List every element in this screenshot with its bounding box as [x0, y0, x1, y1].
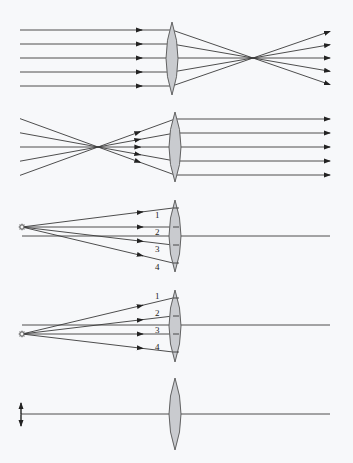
point-source-star-icon: [19, 331, 25, 337]
ray-number-label: 2: [155, 308, 160, 318]
lens-parallel-in-converge: [166, 22, 178, 95]
lens-object-arrow: [169, 378, 181, 450]
ray-arrow-icon: [138, 132, 140, 133]
lens-ray-diagram: 12341234: [0, 0, 353, 463]
numbered-ray: [22, 208, 173, 227]
convex-lens: [169, 378, 181, 450]
ray-number-label: 1: [155, 291, 160, 301]
ray-number-label: 2: [155, 227, 160, 237]
convex-lens: [169, 200, 181, 272]
numbered-ray: [22, 334, 173, 352]
ray-number-label: 1: [155, 210, 160, 220]
ray-number-label: 4: [155, 262, 160, 272]
ray-number-label: 4: [155, 342, 160, 352]
ray-arrow-icon: [138, 162, 140, 163]
diagram-canvas: 12341234: [0, 0, 353, 463]
lens-focus-in-parallel: [169, 112, 181, 182]
convex-lens: [166, 22, 178, 95]
refracted-ray: [172, 31, 330, 86]
convex-lens: [169, 290, 181, 362]
convex-lens: [169, 112, 181, 182]
lens-point-source-off-axis: [169, 290, 181, 362]
ray-number-label: 3: [155, 244, 160, 254]
numbered-ray: [22, 227, 173, 263]
point-source-star-icon: [19, 224, 25, 230]
lens-point-source-near: [169, 200, 181, 272]
ray-number-label: 3: [155, 325, 160, 335]
numbered-ray: [22, 298, 173, 334]
